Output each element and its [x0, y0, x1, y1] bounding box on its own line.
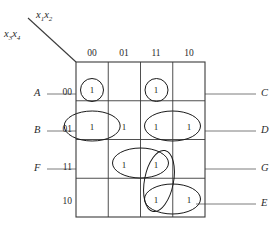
kmap-canvas — [0, 0, 278, 228]
row-header-1: 01 — [50, 125, 72, 135]
group-label-E: E — [261, 198, 267, 209]
axis-diagonal-line — [28, 18, 76, 62]
kmap-cell-r0c0: 1 — [85, 85, 99, 95]
group-label-B: B — [34, 125, 40, 136]
group-label-D: D — [261, 125, 269, 136]
kmap-cell-r2c2: 1 — [149, 160, 163, 170]
kmap-cell-r1c2: 1 — [149, 122, 163, 132]
kmap-cell-r1c0: 1 — [85, 122, 99, 132]
kmap-cell-r0c2: 1 — [149, 85, 163, 95]
group-label-A: A — [34, 88, 40, 99]
column-header-1: 01 — [108, 49, 140, 59]
row-header-2: 11 — [50, 163, 72, 173]
kmap-cell-r3c2: 1 — [149, 195, 163, 205]
kmap-cell-r3c3: 1 — [182, 195, 196, 205]
row-header-3: 10 — [50, 197, 72, 207]
kmap-cell-r2c1: 1 — [117, 160, 131, 170]
axis-label-columns: x1x2 — [36, 10, 52, 23]
karnaugh-map-figure: x1x2 x3x4 00 01 11 10 00 01 11 10 A B F … — [0, 0, 278, 228]
column-header-2: 11 — [140, 49, 172, 59]
group-label-G: G — [261, 163, 269, 174]
group-label-F: F — [34, 163, 40, 174]
row-header-3-col: 10 — [173, 49, 205, 59]
column-header-0: 00 — [76, 49, 108, 59]
kmap-cell-r1c1: 1 — [117, 122, 131, 132]
group-label-C: C — [261, 88, 268, 99]
kmap-cell-r1c3: 1 — [182, 122, 196, 132]
row-header-0: 00 — [50, 88, 72, 98]
axis-label-rows: x3x4 — [4, 29, 20, 42]
